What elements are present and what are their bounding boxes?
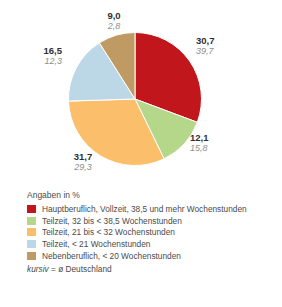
label-nebenberuflich: 9,0 2,8 <box>94 11 134 31</box>
label-value: 12,1 <box>190 133 209 143</box>
label-value: 16,5 <box>18 46 62 56</box>
legend: Angaben in % Hauptberuflich, Vollzeit, 3… <box>27 190 277 274</box>
label-teilzeit-unter-21: 16,5 12,3 <box>18 46 62 66</box>
legend-note-rest: = ø Deutschland <box>49 264 112 274</box>
legend-title: Angaben in % <box>27 190 277 200</box>
pie-svg <box>68 32 202 166</box>
pie-graphic <box>68 32 202 166</box>
label-average: 29,3 <box>63 163 103 172</box>
legend-item-label: Hauptberuflich, Vollzeit, 38,5 und mehr … <box>42 204 247 214</box>
legend-swatch <box>27 240 36 248</box>
label-value: 30,7 <box>196 36 215 46</box>
legend-item: Hauptberuflich, Vollzeit, 38,5 und mehr … <box>27 204 277 216</box>
label-value: 9,0 <box>94 11 134 21</box>
label-average: 12,3 <box>18 57 62 66</box>
label-teilzeit-21-32: 31,7 29,3 <box>63 152 103 172</box>
label-average: 15,8 <box>190 144 209 153</box>
legend-item: Nebenberuflich, < 20 Wochenstunden <box>27 250 277 262</box>
label-value: 31,7 <box>63 152 103 162</box>
legend-rows: Hauptberuflich, Vollzeit, 38,5 und mehr … <box>27 204 277 262</box>
legend-item: Teilzeit, 21 bis < 32 Wochenstunden <box>27 227 277 239</box>
legend-item-label: Teilzeit, 32 bis < 38,5 Wochenstunden <box>42 216 182 226</box>
legend-note: kursiv = ø Deutschland <box>27 264 277 274</box>
legend-swatch <box>27 252 36 260</box>
label-average: 2,8 <box>94 22 134 31</box>
legend-note-italic: kursiv <box>27 264 49 274</box>
legend-item: Teilzeit, < 21 Wochenstunden <box>27 238 277 250</box>
legend-swatch <box>27 217 36 225</box>
legend-swatch <box>27 205 36 213</box>
legend-item-label: Teilzeit, 21 bis < 32 Wochenstunden <box>42 227 175 237</box>
legend-item: Teilzeit, 32 bis < 38,5 Wochenstunden <box>27 215 277 227</box>
legend-item-label: Nebenberuflich, < 20 Wochenstunden <box>42 251 181 261</box>
pie-chart: 30,7 39,7 12,1 15,8 31,7 29,3 16,5 12,3 … <box>0 0 282 188</box>
label-average: 39,7 <box>196 47 215 56</box>
label-teilzeit-32-385: 12,1 15,8 <box>190 133 209 153</box>
legend-swatch <box>27 228 36 236</box>
legend-item-label: Teilzeit, < 21 Wochenstunden <box>42 239 150 249</box>
label-hauptberuflich: 30,7 39,7 <box>196 36 215 56</box>
